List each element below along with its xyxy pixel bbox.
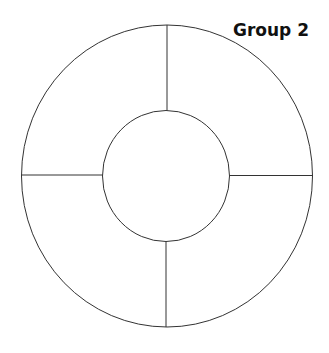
ring-diagram: [0, 0, 329, 353]
inner-circle: [103, 111, 230, 242]
diagram-canvas: Group 2: [0, 0, 329, 353]
